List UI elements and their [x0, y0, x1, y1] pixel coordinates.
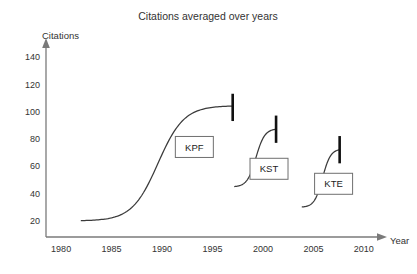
citations-line-chart: Citations averaged over years Citations … [0, 0, 417, 274]
y-tick-label: 20 [30, 216, 40, 226]
x-tick-label: 2000 [253, 244, 273, 254]
series-label-text: KTE [324, 178, 342, 189]
x-axis-tick-labels: 1980198519901995200020052010 [51, 244, 374, 254]
series-errorbars-group [233, 94, 340, 164]
series-curves-group [81, 106, 339, 221]
y-tick-label: 100 [25, 107, 40, 117]
series-label-kst: KST [250, 158, 288, 179]
x-axis-arrow-icon [377, 233, 387, 241]
x-tick-label: 2010 [354, 244, 374, 254]
x-tick-label: 1985 [102, 244, 122, 254]
y-axis-title: Citations [42, 30, 79, 41]
chart-container: Citations averaged over years Citations … [0, 0, 417, 274]
series-label-text: KPF [185, 142, 204, 153]
chart-title: Citations averaged over years [138, 10, 278, 22]
chart-axes [42, 38, 387, 241]
x-tick-label: 1980 [51, 244, 71, 254]
y-tick-label: 40 [30, 189, 40, 199]
series-curve-kpf [81, 106, 232, 221]
x-tick-label: 1995 [202, 244, 222, 254]
x-tick-label: 2005 [303, 244, 323, 254]
series-label-kpf: KPF [175, 136, 213, 157]
y-axis-tick-labels: 20406080100120140 [25, 52, 40, 226]
y-tick-label: 140 [25, 52, 40, 62]
y-tick-label: 120 [25, 80, 40, 90]
series-label-kte: KTE [315, 173, 353, 194]
series-label-text: KST [260, 163, 279, 174]
y-tick-label: 80 [30, 134, 40, 144]
x-tick-label: 1990 [152, 244, 172, 254]
x-axis-title: Year [390, 235, 409, 246]
y-tick-label: 60 [30, 161, 40, 171]
